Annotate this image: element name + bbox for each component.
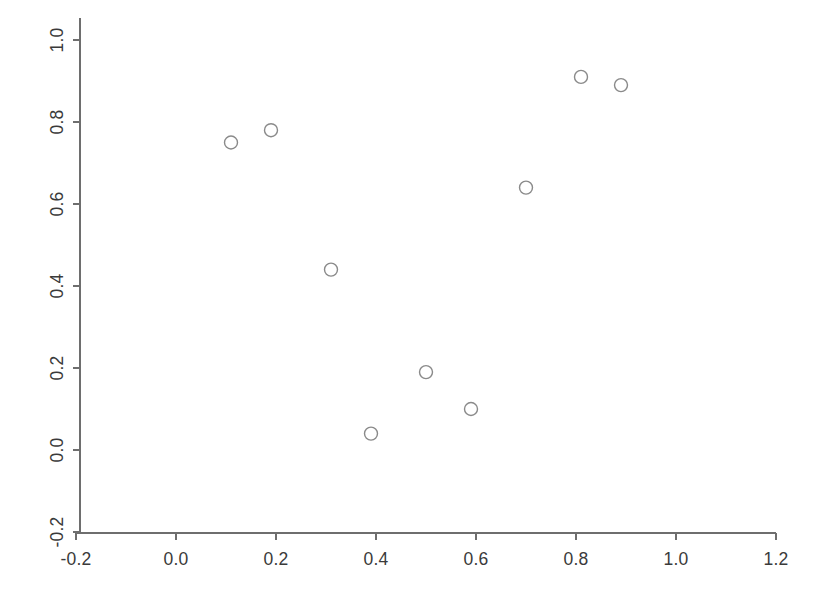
x-axis-tick-label: 0.4	[364, 549, 389, 569]
scatter-point	[520, 181, 533, 194]
scatter-point	[325, 263, 338, 276]
y-axis-tick-labels: -0.20.00.20.40.60.81.0	[47, 27, 67, 547]
x-axis-tick-labels: -0.20.00.20.40.60.81.01.2	[61, 549, 789, 569]
x-axis-tick-label: 1.2	[764, 549, 789, 569]
scatter-point	[465, 403, 478, 416]
x-axis-tick-label: 1.0	[664, 549, 689, 569]
y-axis-tick-label: 0.4	[47, 273, 67, 298]
x-axis-tick-label: 0.2	[264, 549, 289, 569]
x-axis: -0.20.00.20.40.60.81.01.2	[61, 533, 789, 569]
x-axis-tick-label: -0.2	[61, 549, 92, 569]
x-axis-ticks	[76, 533, 776, 540]
y-axis-tick-label: 0.0	[47, 437, 67, 462]
scatter-point	[575, 70, 588, 83]
y-axis-tick-label: 1.0	[47, 27, 67, 52]
scatter-plot-figure: -0.20.00.20.40.60.81.01.2 -0.20.00.20.40…	[0, 0, 825, 596]
x-axis-tick-label: 0.8	[564, 549, 589, 569]
y-axis-tick-label: -0.2	[47, 517, 67, 548]
y-axis-ticks	[73, 40, 80, 532]
scatter-point	[365, 427, 378, 440]
scatter-point	[265, 124, 278, 137]
y-axis-tick-label: 0.8	[47, 110, 67, 135]
x-axis-tick-label: 0.6	[464, 549, 489, 569]
x-axis-tick-label: 0.0	[164, 549, 189, 569]
scatter-point	[615, 79, 628, 92]
y-axis: -0.20.00.20.40.60.81.0	[47, 18, 80, 547]
scatter-point	[225, 136, 238, 149]
y-axis-tick-label: 0.2	[47, 356, 67, 381]
y-axis-tick-label: 0.6	[47, 192, 67, 217]
plot-canvas: -0.20.00.20.40.60.81.01.2 -0.20.00.20.40…	[0, 0, 825, 596]
scatter-point	[420, 366, 433, 379]
scatter-data-points	[225, 70, 628, 440]
